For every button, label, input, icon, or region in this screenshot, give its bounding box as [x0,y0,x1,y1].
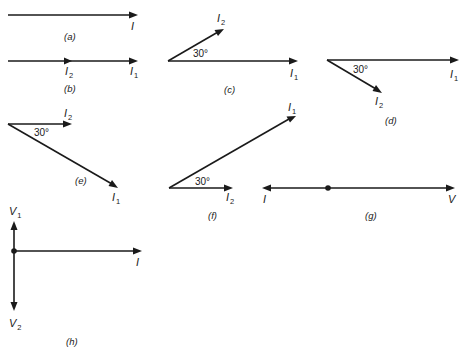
label-i2: I2 [375,95,383,110]
phasor-i1-line [169,119,289,188]
panel-e: I2 30° (e) I1 [8,107,120,206]
arrowhead-icon [446,185,455,192]
label-i1: I1 [112,191,120,206]
arrowhead-icon [129,58,138,65]
phasor-diagram-figure: I (a) I2 I1 (b) I2 30° I1 (c) 30° I1 I2 … [0,0,468,350]
arrowhead-icon [450,57,459,64]
panel-h: V1 V2 I (h) [9,205,142,347]
origin-dot-icon [325,185,331,191]
label-i: I [263,193,266,205]
panel-g: I V (g) [262,185,457,222]
angle-label: 30° [195,176,210,187]
arrowhead-icon [109,180,119,188]
angle-label: 30° [34,127,49,138]
panel-a: I (a) [8,12,138,43]
arrowhead-icon [11,302,18,311]
label-v2: V2 [9,317,22,332]
arrowhead-icon [64,58,72,65]
arrowhead-icon [289,58,298,65]
arrowhead-icon [11,221,18,230]
label-i: I [131,20,134,32]
label-v: V [448,193,457,205]
caption-c: (c) [224,84,235,95]
arrowhead-icon [133,248,142,255]
label-v1: V1 [9,205,22,220]
arrowhead-icon [129,12,138,19]
label-i1: I1 [130,65,138,80]
label-i: I [136,256,139,268]
angle-label: 30° [193,48,208,59]
label-i1: I1 [288,101,296,116]
label-i2: I2 [226,191,234,206]
origin-dot-icon [11,248,17,254]
arrowhead-icon [262,185,271,192]
panel-c: I2 30° I1 (c) [168,12,298,95]
panel-d: 30° I1 I2 (d) [327,57,459,127]
caption-f: (f) [208,210,217,221]
phasor-i2-line [327,60,376,89]
caption-e: (e) [75,175,87,186]
label-i1: I1 [290,67,298,82]
phasor-i1-line [8,124,112,184]
caption-d: (d) [385,115,397,126]
label-i1: I1 [450,68,458,83]
panel-f: I1 30° I2 (f) [169,101,296,221]
label-i2: I2 [217,12,225,27]
caption-h: (h) [66,336,78,347]
caption-a: (a) [64,31,76,42]
caption-b: (b) [64,83,76,94]
caption-g: (g) [365,210,377,221]
arrowhead-icon [373,85,383,93]
angle-label: 30° [353,64,368,75]
label-i2: I2 [65,65,73,80]
panel-b: I2 I1 (b) [8,58,138,95]
label-i2: I2 [64,107,72,122]
